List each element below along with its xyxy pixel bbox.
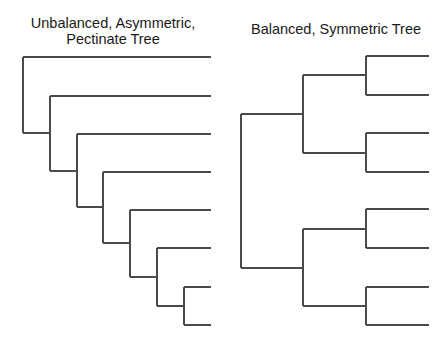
- trees-canvas: [0, 0, 446, 340]
- pectinate-tree: [23, 57, 211, 325]
- balanced-tree: [241, 56, 429, 325]
